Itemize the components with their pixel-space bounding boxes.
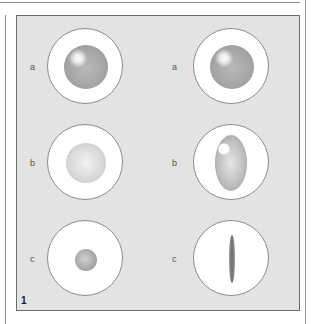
- figure-number: 1: [21, 296, 27, 306]
- row-label-c-left: c: [30, 254, 35, 264]
- row-label-c-right: c: [172, 254, 177, 264]
- row-label-a-right: a: [172, 62, 177, 72]
- dish-c-right: [193, 220, 269, 296]
- dish-a-right: [193, 28, 269, 104]
- dish-a-left: [47, 28, 123, 104]
- cell-large-sphere: [64, 45, 108, 89]
- cell-large-sphere: [210, 45, 254, 89]
- top-rule: [0, 2, 300, 3]
- figure-panel: a b c a b c 1: [16, 15, 300, 311]
- cell-pale-sphere: [66, 143, 106, 183]
- dish-b-right: [193, 124, 269, 200]
- cell-ovoid: [215, 135, 247, 191]
- cell-small-sphere: [75, 249, 97, 271]
- right-rule: [305, 0, 306, 324]
- row-label-b-left: b: [30, 158, 35, 168]
- row-label-a-left: a: [30, 62, 35, 72]
- dish-b-left: [47, 124, 123, 200]
- left-rule: [5, 15, 6, 324]
- row-label-b-right: b: [172, 158, 177, 168]
- cell-needle: [229, 235, 235, 283]
- dish-c-left: [47, 220, 123, 296]
